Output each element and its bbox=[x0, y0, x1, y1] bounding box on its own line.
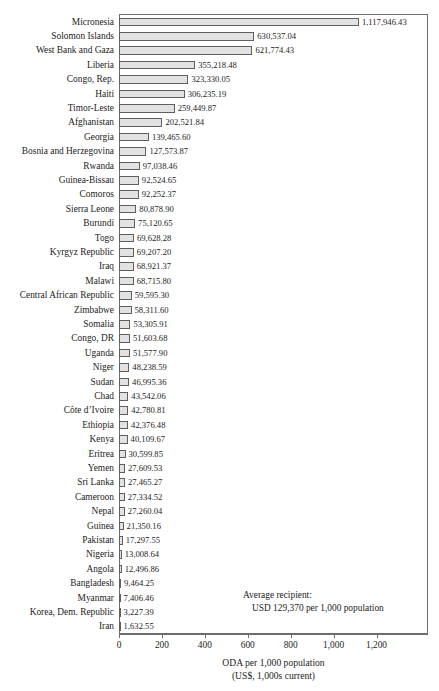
bar bbox=[119, 622, 121, 631]
bar-row: Angola12,496.86 bbox=[0, 564, 439, 580]
bar-value-label: 12,496.86 bbox=[125, 564, 159, 575]
bar-rows-container: Micronesia1,117,946.43Solomon Islands630… bbox=[0, 14, 439, 634]
bar bbox=[119, 46, 252, 55]
bar-row: Congo, Rep.323,330.05 bbox=[0, 74, 439, 90]
bar-value-label: 53,305.91 bbox=[133, 319, 167, 330]
bar-row: Zimbabwe58,311.60 bbox=[0, 305, 439, 321]
bar bbox=[119, 536, 123, 545]
bar-value-label: 306,235.19 bbox=[188, 89, 227, 100]
bar-value-label: 68,715.80 bbox=[137, 276, 171, 287]
category-label: Burundi bbox=[0, 218, 114, 229]
bar bbox=[119, 61, 195, 70]
bar-value-label: 17,297.55 bbox=[126, 535, 160, 546]
bar-value-label: 621,774.43 bbox=[255, 45, 294, 56]
bar-row: Côte d’Ivoire42,780.81 bbox=[0, 405, 439, 421]
bar-row: Congo, DR51,603.68 bbox=[0, 333, 439, 349]
average-recipient-annotation: Average recipient: USD 129,370 per 1,000… bbox=[243, 589, 384, 614]
category-label: Guinea bbox=[0, 521, 114, 532]
bar-row: Bosnia and Herzegovina127,573.87 bbox=[0, 146, 439, 162]
bar-value-label: 92,524.65 bbox=[142, 175, 176, 186]
bar-value-label: 13,008.64 bbox=[125, 549, 159, 560]
x-axis-title-line-1: ODA per 1,000 population bbox=[119, 657, 428, 670]
bar-value-label: 27,465.27 bbox=[128, 477, 162, 488]
bar-value-label: 323,330.05 bbox=[191, 74, 230, 85]
category-label: Sri Lanka bbox=[0, 477, 114, 488]
bar bbox=[119, 133, 149, 142]
bar bbox=[119, 378, 129, 387]
annotation-line-1: Average recipient: bbox=[243, 589, 384, 602]
bar-value-label: 1,632.55 bbox=[124, 621, 154, 632]
bar-row: Timor-Leste259,449.87 bbox=[0, 103, 439, 119]
bar bbox=[119, 277, 134, 286]
bar-row: Nigeria13,008.64 bbox=[0, 549, 439, 565]
bar-value-label: 7,406.46 bbox=[124, 593, 154, 604]
bar bbox=[119, 205, 136, 214]
category-label: Afghanistan bbox=[0, 117, 114, 128]
bar bbox=[119, 579, 121, 588]
category-label: Congo, Rep. bbox=[0, 74, 114, 85]
bar-value-label: 75,120.65 bbox=[138, 218, 172, 229]
bar-row: Guinea21,350.16 bbox=[0, 521, 439, 537]
bar-value-label: 1,117,946.43 bbox=[362, 17, 407, 28]
bar-value-label: 92,252.37 bbox=[142, 189, 176, 200]
category-label: Yemen bbox=[0, 463, 114, 474]
category-label: Sierra Leone bbox=[0, 204, 114, 215]
category-label: Nepal bbox=[0, 506, 114, 517]
bar-row: Kyrgyz Republic69,207.20 bbox=[0, 247, 439, 263]
bar-value-label: 43,542.06 bbox=[131, 391, 165, 402]
x-tick-mark bbox=[119, 634, 120, 638]
category-label: Iraq bbox=[0, 261, 114, 272]
category-label: Kenya bbox=[0, 434, 114, 445]
bar-value-label: 42,376.48 bbox=[131, 420, 165, 431]
x-axis-title-line-2: (US$, 1,000s current) bbox=[119, 670, 428, 683]
bar-row: Burundi75,120.65 bbox=[0, 218, 439, 234]
category-label: Comoros bbox=[0, 189, 114, 200]
bar bbox=[119, 406, 128, 415]
bar bbox=[119, 291, 132, 300]
bar-value-label: 630,537.04 bbox=[257, 31, 296, 42]
bar bbox=[119, 147, 146, 156]
bar bbox=[119, 75, 188, 84]
category-label: Nigeria bbox=[0, 549, 114, 560]
bar bbox=[119, 608, 121, 617]
bar-row: Solomon Islands630,537.04 bbox=[0, 31, 439, 47]
category-label: Angola bbox=[0, 564, 114, 575]
bar-value-label: 51,577.90 bbox=[133, 348, 167, 359]
bar-row: Sudan46,995.36 bbox=[0, 377, 439, 393]
bar-row: Georgia139,465.60 bbox=[0, 132, 439, 148]
x-tick-mark bbox=[291, 634, 292, 638]
bar bbox=[119, 522, 124, 531]
bar bbox=[119, 320, 130, 329]
bar-value-label: 21,350.16 bbox=[127, 521, 161, 532]
category-label: Central African Republic bbox=[0, 290, 114, 301]
x-tick-label: 400 bbox=[198, 639, 212, 651]
bar-value-label: 27,609.53 bbox=[128, 463, 162, 474]
bar bbox=[119, 32, 254, 41]
bar bbox=[119, 421, 128, 430]
bar-row: Malawi68,715.80 bbox=[0, 276, 439, 292]
bar-row: Nepal27,260.04 bbox=[0, 506, 439, 522]
bar-row: Afghanistan202,521.84 bbox=[0, 117, 439, 133]
category-label: Chad bbox=[0, 391, 114, 402]
bar-value-label: 30,599.85 bbox=[129, 449, 163, 460]
bar-value-label: 3,227.39 bbox=[124, 607, 154, 618]
bar-value-label: 69,628.28 bbox=[137, 233, 171, 244]
bar bbox=[119, 306, 132, 315]
x-tick-label: 1,200 bbox=[366, 639, 387, 651]
x-axis-line bbox=[119, 634, 428, 635]
bar-row: Eritrea30,599.85 bbox=[0, 449, 439, 465]
bar bbox=[119, 507, 125, 516]
category-label: Sudan bbox=[0, 377, 114, 388]
x-axis-title: ODA per 1,000 population (US$, 1,000s cu… bbox=[119, 657, 428, 682]
category-label: Iran bbox=[0, 621, 114, 632]
x-tick-mark bbox=[377, 634, 378, 638]
bar-row: Ethiopia42,376.48 bbox=[0, 420, 439, 436]
category-label: Congo, DR bbox=[0, 333, 114, 344]
bar-value-label: 202,521.84 bbox=[165, 117, 204, 128]
category-label: Georgia bbox=[0, 132, 114, 143]
bar bbox=[119, 234, 134, 243]
bar bbox=[119, 104, 175, 113]
bar bbox=[119, 334, 130, 343]
bar-row: Niger48,238.59 bbox=[0, 362, 439, 378]
bar-value-label: 40,109.67 bbox=[131, 434, 165, 445]
